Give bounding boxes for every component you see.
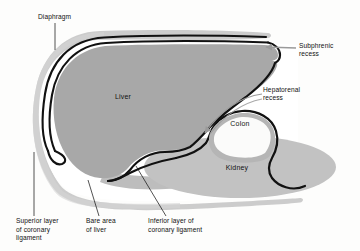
annotation-label-subphrenic-recess: Subphrenic recess: [299, 42, 335, 57]
organ-label-liver: Liver: [115, 93, 132, 100]
subphrenic-line-2: recess: [299, 50, 320, 57]
bare-area-line-1: Bare area: [86, 217, 116, 224]
annotation-label-diaphragm: Diaphragm: [38, 13, 72, 21]
organ-label-kidney: Kidney: [226, 164, 249, 172]
bare-area-line-2: of liver: [86, 226, 107, 233]
superior-line-2: of coronary: [16, 226, 51, 234]
anatomy-figure: Liver Kidney Colon Diaphragm Subphrenic …: [0, 0, 360, 251]
organ-label-colon: Colon: [230, 120, 249, 127]
superior-line-3: ligament: [16, 234, 42, 242]
inferior-line-1: Inferior layer of: [148, 217, 194, 225]
hepatorenal-line-1: Hepatorenal: [263, 86, 300, 94]
anatomy-diagram-svg: Liver Kidney Colon Diaphragm Subphrenic …: [0, 0, 360, 251]
inferior-line-2: coronary ligament: [148, 226, 202, 234]
annotation-label-superior-coronary-ligament: Superior layer of coronary ligament: [16, 217, 60, 242]
annotation-label-inferior-coronary-ligament: Inferior layer of coronary ligament: [148, 217, 202, 234]
hepatorenal-line-2: recess: [263, 94, 284, 101]
annotation-label-bare-area: Bare area of liver: [86, 217, 118, 233]
superior-line-1: Superior layer: [16, 217, 59, 225]
subphrenic-line-1: Subphrenic: [299, 42, 334, 50]
